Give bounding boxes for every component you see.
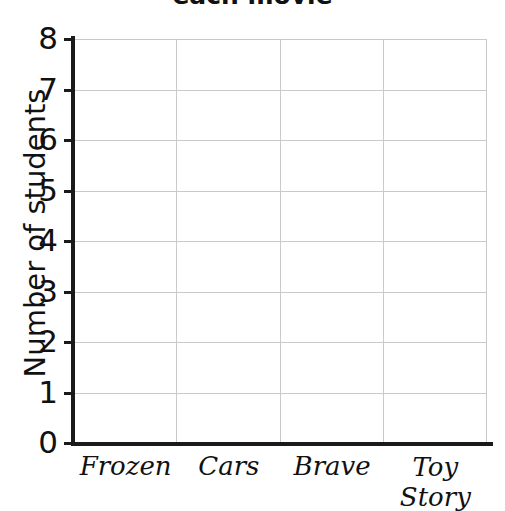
x-axis-line: [71, 442, 493, 446]
y-tick-label: 1: [24, 377, 58, 408]
y-tick-mark: [64, 442, 75, 445]
y-tick-mark: [64, 89, 75, 92]
y-tick-label: 3: [24, 276, 58, 307]
y-tick-label: 4: [24, 225, 58, 256]
y-tick-label: 8: [24, 23, 58, 54]
grid-lines: [74, 39, 487, 443]
y-tick-label: 6: [24, 124, 58, 155]
y-tick-mark: [64, 291, 75, 294]
y-tick-mark: [64, 190, 75, 193]
y-tick-mark: [64, 240, 75, 243]
y-tick-label: 0: [24, 427, 58, 458]
chart-title-clip: each movie: [0, 0, 505, 12]
x-tick-label: Brave: [272, 452, 392, 480]
y-tick-label: 7: [24, 74, 58, 105]
bar-chart-figure: each movie Number of students 876543210 …: [0, 0, 505, 511]
x-tick-label: Cars: [169, 452, 289, 480]
y-tick-label: 2: [24, 326, 58, 357]
y-tick-mark: [64, 139, 75, 142]
y-tick-mark: [64, 392, 75, 395]
chart-title: each movie: [0, 0, 505, 9]
y-tick-label: 5: [24, 175, 58, 206]
y-tick-mark: [64, 341, 75, 344]
x-tick-label: Frozen: [66, 452, 186, 480]
y-tick-mark: [64, 38, 75, 41]
plot-area: [74, 39, 487, 443]
x-tick-label: Toy Story: [387, 452, 483, 511]
